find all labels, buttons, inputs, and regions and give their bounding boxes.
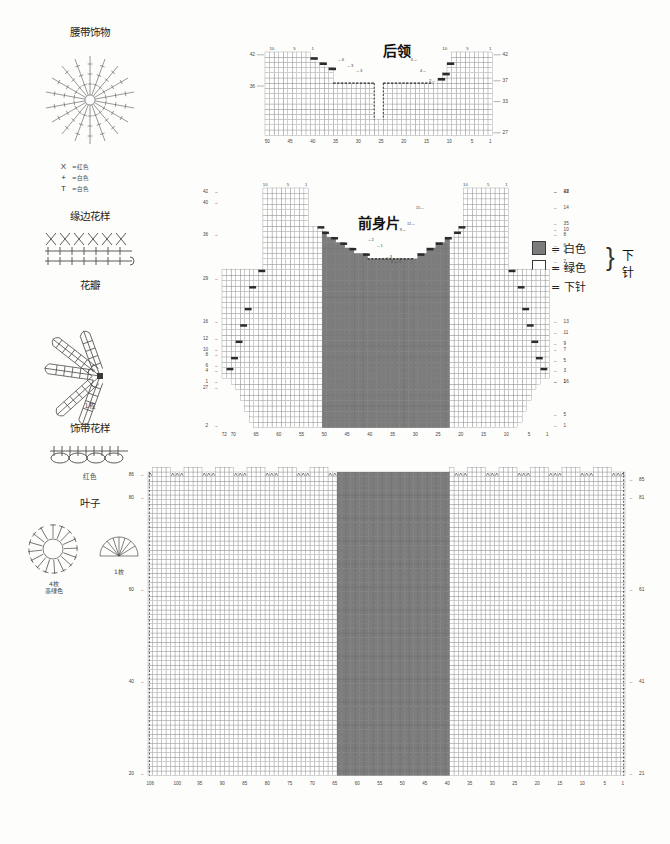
- chart-back-body: 1061009590858075706560555045403530252015…: [0, 458, 670, 844]
- svg-text:←: ←: [554, 412, 558, 417]
- svg-text:15: 15: [481, 432, 487, 437]
- svg-text:3: 3: [564, 368, 567, 373]
- svg-text:75: 75: [287, 781, 293, 786]
- svg-text:7: 7: [564, 347, 567, 352]
- svg-text:←: ←: [554, 259, 558, 264]
- svg-text:15: 15: [424, 139, 430, 144]
- svg-text:→: →: [214, 363, 218, 368]
- svg-text:←: ←: [554, 379, 558, 384]
- svg-text:5: 5: [564, 358, 567, 363]
- svg-text:30: 30: [356, 139, 362, 144]
- chart-back-collar: 后领 5045403530252015105110511051423642373…: [0, 0, 670, 170]
- svg-text:12: 12: [203, 336, 209, 341]
- svg-text:50: 50: [400, 781, 406, 786]
- svg-text:5: 5: [466, 46, 469, 51]
- svg-text:25: 25: [512, 781, 518, 786]
- svg-text:42: 42: [203, 189, 209, 194]
- svg-text:→: →: [140, 679, 144, 684]
- svg-text:25: 25: [378, 139, 384, 144]
- svg-text:42: 42: [503, 52, 509, 57]
- svg-text:50: 50: [322, 432, 328, 437]
- back-body-grid: 1061009590858075706560555045403530252015…: [0, 458, 670, 844]
- svg-text:11→: 11→: [407, 221, 415, 226]
- svg-text:→: →: [214, 368, 218, 373]
- svg-text:5: 5: [564, 412, 567, 417]
- svg-text:42: 42: [250, 52, 256, 57]
- svg-text:41: 41: [639, 679, 645, 684]
- svg-text:65: 65: [332, 781, 338, 786]
- svg-text:10: 10: [269, 46, 274, 51]
- svg-text:4: 4: [564, 249, 567, 254]
- svg-text:13: 13: [564, 319, 570, 324]
- svg-text:←: ←: [554, 243, 558, 248]
- svg-text:2→: 2→: [429, 78, 436, 83]
- svg-text:5: 5: [603, 781, 606, 786]
- svg-text:85: 85: [242, 781, 248, 786]
- svg-text:1: 1: [564, 423, 567, 428]
- svg-text:29: 29: [203, 276, 209, 281]
- svg-text:20: 20: [129, 771, 135, 776]
- svg-text:1: 1: [305, 182, 308, 187]
- svg-text:9→: 9→: [400, 227, 406, 232]
- svg-text:5: 5: [471, 139, 474, 144]
- svg-text:33: 33: [503, 99, 509, 104]
- svg-text:45: 45: [345, 432, 351, 437]
- svg-text:→: →: [214, 336, 218, 341]
- svg-text:20: 20: [458, 432, 464, 437]
- svg-text:10: 10: [447, 139, 453, 144]
- svg-text:36: 36: [250, 84, 256, 89]
- svg-text:30: 30: [490, 781, 496, 786]
- chart-title-back-collar: 后领: [383, 40, 411, 60]
- svg-text:6→: 6→: [411, 57, 418, 62]
- svg-text:→: →: [214, 189, 218, 194]
- svg-text:21: 21: [639, 771, 645, 776]
- svg-text:8: 8: [564, 232, 567, 237]
- svg-text:60: 60: [129, 587, 135, 592]
- svg-text:←: ←: [629, 477, 633, 482]
- svg-text:40: 40: [310, 139, 316, 144]
- svg-text:←2: ←2: [367, 237, 374, 242]
- svg-text:←1: ←1: [377, 243, 384, 248]
- svg-text:20: 20: [401, 139, 407, 144]
- svg-text:1: 1: [312, 46, 315, 51]
- svg-text:←: ←: [554, 249, 558, 254]
- svg-text:81: 81: [639, 495, 645, 500]
- svg-text:80: 80: [265, 781, 271, 786]
- svg-text:55: 55: [299, 432, 305, 437]
- chart-title-front-body: 前身片: [358, 212, 400, 232]
- svg-text:14: 14: [564, 205, 570, 210]
- svg-text:←: ←: [629, 495, 633, 500]
- svg-text:←: ←: [554, 423, 558, 428]
- svg-text:10: 10: [263, 182, 268, 187]
- svg-text:50: 50: [265, 139, 271, 144]
- svg-text:2→: 2→: [391, 259, 397, 264]
- svg-text:←3: ←3: [356, 68, 363, 73]
- svg-text:37: 37: [503, 78, 509, 83]
- svg-text:1: 1: [546, 432, 549, 437]
- svg-text:1: 1: [489, 139, 492, 144]
- svg-text:27: 27: [203, 385, 209, 390]
- svg-text:4: 4: [205, 368, 208, 373]
- svg-text:→: →: [140, 472, 144, 477]
- svg-text:←: ←: [554, 341, 558, 346]
- svg-text:70: 70: [231, 432, 237, 437]
- svg-text:85: 85: [639, 477, 645, 482]
- pattern-sheet: 腰带饰物: [0, 0, 670, 844]
- svg-text:90: 90: [220, 781, 226, 786]
- svg-text:←: ←: [554, 232, 558, 237]
- svg-text:5: 5: [293, 46, 296, 51]
- svg-text:→: →: [140, 771, 144, 776]
- svg-text:→: →: [214, 276, 218, 281]
- svg-text:45: 45: [422, 781, 428, 786]
- svg-text:←: ←: [554, 319, 558, 324]
- svg-text:15→: 15→: [416, 205, 425, 210]
- svg-text:25: 25: [436, 432, 442, 437]
- svg-text:30: 30: [413, 432, 419, 437]
- svg-text:10: 10: [463, 182, 468, 187]
- svg-text:10: 10: [580, 781, 586, 786]
- svg-text:5: 5: [287, 182, 290, 187]
- svg-text:10: 10: [504, 432, 510, 437]
- svg-text:35: 35: [564, 221, 570, 226]
- svg-text:72: 72: [222, 432, 228, 437]
- svg-text:←: ←: [554, 347, 558, 352]
